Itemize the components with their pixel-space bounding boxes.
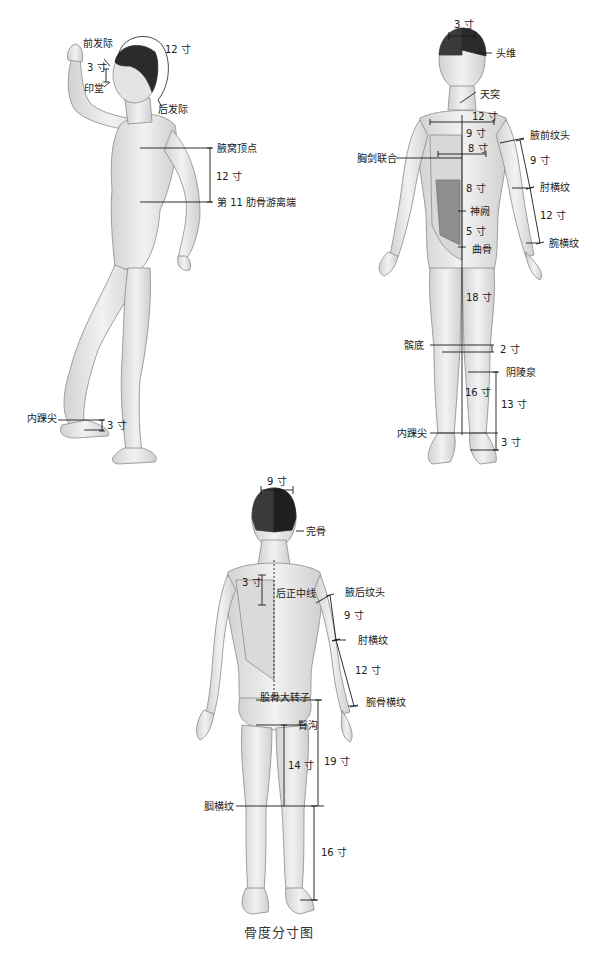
label-yinlingquan-malleolus-13cun: 13 寸	[501, 399, 527, 411]
label-malleolus-3cun-side: 3 寸	[107, 420, 127, 432]
label-back-hairline: 后发际	[158, 104, 188, 116]
figure-caption: 骨度分寸图	[244, 922, 314, 941]
label-rib11-free-end: 第 11 肋骨游离端	[217, 197, 296, 209]
label-head-arc-12cun: 12 寸	[165, 44, 191, 56]
label-patella-2cun: 2 寸	[500, 344, 520, 356]
label-sternum-navel-8cun: 8 寸	[466, 183, 486, 195]
label-patella-base: 髌底	[404, 340, 424, 352]
label-medial-malleolus-front: 内踝尖	[397, 428, 427, 440]
label-pubis-knee-18cun: 18 寸	[466, 292, 492, 304]
label-brow-3cun: 3 寸	[87, 62, 107, 74]
label-head-width-3cun: 3 寸	[454, 19, 474, 31]
label-mastoid-9cun: 9 寸	[267, 476, 287, 488]
label-nipple-8cun: 8 寸	[468, 143, 488, 155]
label-posterior-axillary-fold: 腋后纹头	[345, 587, 385, 599]
label-popliteal-crease: 腘横纹	[204, 801, 234, 813]
label-tiantu: 天突	[480, 89, 500, 101]
label-back-axilla-elbow-9cun: 9 寸	[344, 610, 364, 622]
label-elbow-crease: 肘横纹	[540, 182, 570, 194]
label-tiantu-sternum-9cun: 9 寸	[466, 128, 486, 140]
label-qugu: 曲骨	[472, 244, 492, 256]
label-back-elbow-crease: 肘横纹	[358, 635, 388, 647]
label-posterior-midline: 后正中线	[276, 588, 316, 600]
label-shoulder-12cun: 12 寸	[472, 111, 498, 123]
label-back-elbow-wrist-12cun: 12 寸	[355, 665, 381, 677]
label-navel-pubis-5cun: 5 寸	[466, 226, 486, 238]
label-trochanter-knee-19cun: 19 寸	[324, 756, 350, 768]
label-axilla-elbow-9cun: 9 寸	[530, 155, 550, 167]
label-knee-malleolus-16cun: 16 寸	[465, 387, 491, 399]
label-yintang: 印堂	[84, 83, 104, 95]
label-anterior-axillary-fold: 腋前纹头	[530, 130, 570, 142]
side-figure	[61, 36, 200, 464]
label-back-wrist-crease: 腕骨横纹	[366, 697, 406, 709]
label-shenque: 神阙	[470, 206, 490, 218]
label-greater-trochanter: 股骨大转子	[260, 692, 310, 704]
label-front-hairline: 前发际	[83, 38, 113, 50]
label-elbow-wrist-12cun: 12 寸	[540, 210, 566, 222]
label-touwei: 头维	[496, 48, 516, 60]
label-gluteal-fold: 臀沟	[298, 720, 318, 732]
label-wrist-crease: 腕横纹	[549, 238, 579, 250]
label-knee-ankle-16cun: 16 寸	[321, 847, 347, 859]
label-axilla-rib-12cun: 12 寸	[216, 171, 242, 183]
label-yinlingquan: 阴陵泉	[506, 367, 536, 379]
label-axilla-apex: 腋窝顶点	[217, 143, 257, 155]
label-medial-malleolus-side: 内踝尖	[27, 413, 57, 425]
bone-proportion-diagram: 前发际 12 寸 3 寸 印堂 后发际 腋窝顶点 12 寸 第 11 肋骨游离端…	[0, 0, 609, 955]
label-scapula-3cun: 3 寸	[242, 577, 262, 589]
label-gluteal-knee-14cun: 14 寸	[288, 760, 314, 772]
label-wangu: 完骨	[306, 526, 326, 538]
figures-svg	[0, 0, 609, 955]
label-malleolus-3cun-front: 3 寸	[501, 437, 521, 449]
label-xiphisternal: 胸剑联合	[357, 153, 397, 165]
